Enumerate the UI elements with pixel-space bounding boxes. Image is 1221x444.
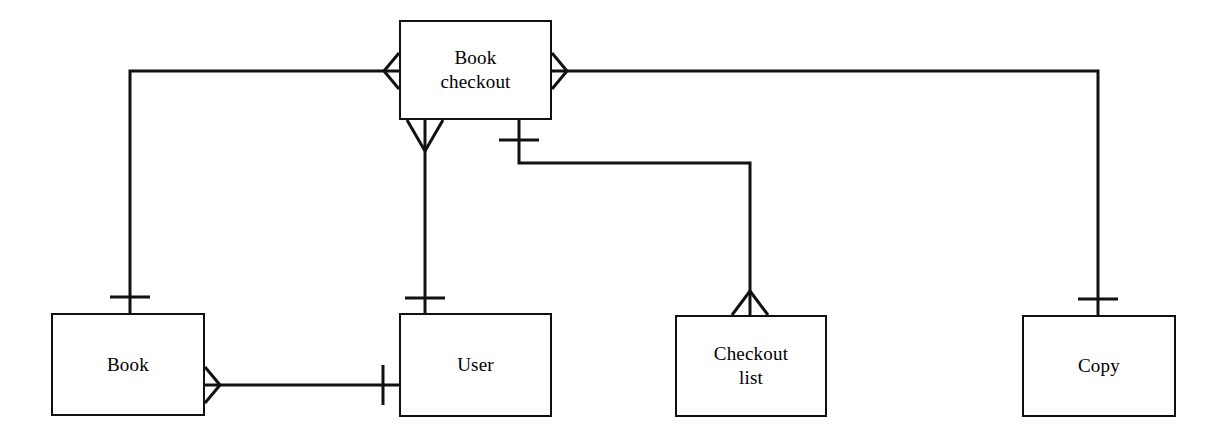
crowsfoot-many-book-checkout-right bbox=[552, 53, 567, 89]
er-diagram: Book checkout Book User Checkout list Co… bbox=[0, 0, 1221, 444]
connector-line bbox=[519, 120, 750, 291]
entity-book-checkout[interactable]: Book checkout bbox=[399, 20, 552, 120]
crowsfoot-many-checkout-list bbox=[732, 291, 768, 315]
entity-book[interactable]: Book bbox=[51, 313, 205, 416]
connector-book-to-user bbox=[205, 365, 399, 405]
entity-copy[interactable]: Copy bbox=[1022, 315, 1176, 417]
crowsfoot-many-book-right bbox=[205, 367, 220, 403]
crowsfoot-many-book-checkout-left bbox=[384, 53, 399, 89]
crowsfoot-many-book-checkout-bottom bbox=[407, 120, 443, 151]
entity-checkout-list[interactable]: Checkout list bbox=[675, 315, 827, 417]
entity-book-label: Book bbox=[107, 353, 149, 377]
connector-book-checkout-to-copy bbox=[552, 53, 1118, 315]
connector-book-checkout-to-checkout-list bbox=[499, 120, 768, 315]
entity-book-checkout-label: Book checkout bbox=[440, 46, 510, 94]
connector-line bbox=[567, 71, 1098, 315]
connector-book-checkout-to-book bbox=[110, 53, 399, 313]
connector-line bbox=[130, 71, 384, 313]
connector-book-checkout-to-user bbox=[405, 120, 445, 313]
entity-copy-label: Copy bbox=[1078, 354, 1120, 378]
entity-user-label: User bbox=[457, 353, 494, 377]
entity-checkout-list-label: Checkout list bbox=[714, 342, 788, 390]
entity-user[interactable]: User bbox=[399, 313, 552, 417]
